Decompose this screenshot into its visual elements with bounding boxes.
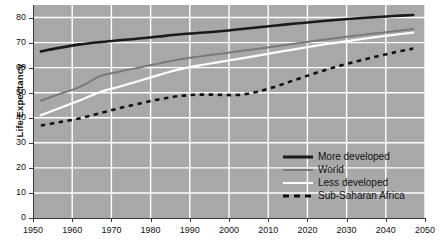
x-tick-mark xyxy=(72,218,73,222)
y-tick-label: 0 xyxy=(6,212,26,222)
y-tick-mark xyxy=(29,118,33,119)
x-tick-label: 1960 xyxy=(52,225,92,235)
legend-swatch-sub-saharan-africa xyxy=(283,189,313,202)
y-axis-title: Life Expectancy xyxy=(14,56,25,146)
x-tick-mark xyxy=(33,218,34,222)
legend-item-world: World xyxy=(283,163,405,176)
x-tick-mark xyxy=(229,218,230,222)
y-tick-mark xyxy=(29,193,33,194)
legend-item-more-developed: More developed xyxy=(283,150,405,163)
y-tick-label: 70 xyxy=(6,37,26,47)
series-line-less-developed xyxy=(41,33,413,116)
y-tick-mark xyxy=(29,168,33,169)
y-tick-mark xyxy=(29,143,33,144)
y-tick-mark xyxy=(29,43,33,44)
x-tick-mark xyxy=(111,218,112,222)
x-tick-label: 1970 xyxy=(91,225,131,235)
x-tick-label: 1990 xyxy=(170,225,210,235)
y-tick-mark xyxy=(29,93,33,94)
x-tick-label: 2020 xyxy=(287,225,327,235)
y-tick-mark xyxy=(29,68,33,69)
x-tick-mark xyxy=(268,218,269,222)
y-tick-label: 80 xyxy=(6,12,26,22)
legend-label-world: World xyxy=(318,163,344,176)
x-tick-label: 2030 xyxy=(327,225,367,235)
chart-legend: More developed World Less developed Sub-… xyxy=(283,150,405,202)
legend-label-sub-saharan-africa: Sub-Saharan Africa xyxy=(318,189,405,202)
legend-swatch-more-developed xyxy=(283,150,313,163)
y-axis-line xyxy=(33,5,34,218)
legend-item-sub-saharan-africa: Sub-Saharan Africa xyxy=(283,189,405,202)
x-tick-mark xyxy=(347,218,348,222)
legend-swatch-world xyxy=(283,163,313,176)
x-tick-label: 1980 xyxy=(131,225,171,235)
x-tick-mark xyxy=(151,218,152,222)
x-tick-label: 2050 xyxy=(405,225,440,235)
x-tick-mark xyxy=(386,218,387,222)
y-tick-mark xyxy=(29,18,33,19)
x-tick-mark xyxy=(190,218,191,222)
y-tick-label: 10 xyxy=(6,187,26,197)
legend-item-less-developed: Less developed xyxy=(283,176,405,189)
legend-label-less-developed: Less developed xyxy=(318,176,388,189)
x-tick-label: 2040 xyxy=(366,225,406,235)
y-tick-label: 20 xyxy=(6,162,26,172)
series-line-more-developed xyxy=(41,15,413,51)
legend-swatch-less-developed xyxy=(283,176,313,189)
x-tick-mark xyxy=(307,218,308,222)
x-tick-label: 2000 xyxy=(209,225,249,235)
x-tick-label: 1950 xyxy=(13,225,53,235)
x-tick-mark xyxy=(425,218,426,222)
x-tick-label: 2010 xyxy=(248,225,288,235)
chart-container: 1950196019701980199020002010202020302040… xyxy=(0,0,440,245)
legend-label-more-developed: More developed xyxy=(318,150,390,163)
y-tick-mark xyxy=(29,218,33,219)
